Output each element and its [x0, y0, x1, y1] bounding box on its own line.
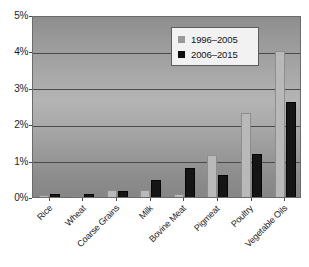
- gridline: [33, 53, 300, 54]
- gridline: [33, 89, 300, 90]
- bar-vegetable-oils-series-1: [286, 102, 296, 197]
- x-axis-tick-mark: [150, 198, 151, 201]
- bar-pigmeat-series-0: [207, 155, 217, 197]
- x-axis-tick-label: Wheat: [63, 203, 88, 228]
- x-axis-tick-label: Pigmeat: [192, 203, 221, 232]
- bar-poultry-series-0: [241, 113, 251, 197]
- x-axis-tick-label: Poultry: [229, 203, 255, 229]
- black-square-icon: [178, 51, 185, 58]
- plot-area: [32, 16, 301, 198]
- x-axis-tick-label: Rice: [35, 203, 54, 222]
- y-axis-tick-mark: [29, 198, 32, 199]
- chart-legend: 1996–2005 2006–2015: [171, 27, 259, 66]
- y-axis-tick-label: 3%: [0, 83, 28, 94]
- x-axis-tick-label: Milk: [137, 203, 155, 221]
- bar-coarse-grains-series-1: [118, 191, 128, 197]
- bar-wheat-series-1: [84, 194, 94, 197]
- bar-coarse-grains-series-0: [107, 190, 117, 197]
- x-axis-tick-mark: [49, 198, 50, 201]
- bar-poultry-series-1: [252, 154, 262, 197]
- legend-label-series-1: 2006–2015: [191, 49, 238, 60]
- legend-item: 2006–2015: [178, 47, 252, 62]
- legend-item: 1996–2005: [178, 32, 252, 47]
- y-axis-tick-label: 0%: [0, 192, 28, 203]
- gridline: [33, 126, 300, 127]
- gray-square-icon: [178, 36, 185, 43]
- y-axis-tick-label: 5%: [0, 10, 28, 21]
- x-axis-tick-mark: [284, 198, 285, 201]
- y-axis-tick-label: 1%: [0, 156, 28, 167]
- x-axis-tick-mark: [217, 198, 218, 201]
- bar-bovine-meat-series-1: [185, 168, 195, 197]
- bar-wheat-series-0: [73, 196, 83, 198]
- x-axis-tick-mark: [82, 198, 83, 201]
- y-axis-tick-label: 2%: [0, 119, 28, 130]
- bar-pigmeat-series-1: [218, 175, 228, 197]
- chart-figure: 0%1%2%3%4%5% RiceWheatCoarse GrainsMilkB…: [0, 0, 309, 267]
- x-axis-tick-mark: [116, 198, 117, 201]
- bar-rice-series-0: [39, 195, 49, 197]
- bar-milk-series-1: [151, 180, 161, 197]
- bar-rice-series-1: [50, 194, 60, 197]
- bar-milk-series-0: [140, 190, 150, 197]
- x-axis-tick-mark: [251, 198, 252, 201]
- bar-bovine-meat-series-0: [174, 194, 184, 197]
- y-axis-tick-label: 4%: [0, 46, 28, 57]
- x-axis-tick-mark: [183, 198, 184, 201]
- legend-label-series-0: 1996–2005: [191, 34, 238, 45]
- bar-vegetable-oils-series-0: [275, 51, 285, 197]
